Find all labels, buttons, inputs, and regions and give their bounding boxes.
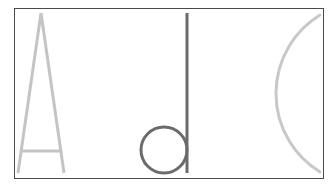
arc-glyph [276,15,320,172]
letter-d-glyph [141,13,187,173]
letter-a-glyph [18,13,64,173]
glyph-canvas [0,0,334,190]
